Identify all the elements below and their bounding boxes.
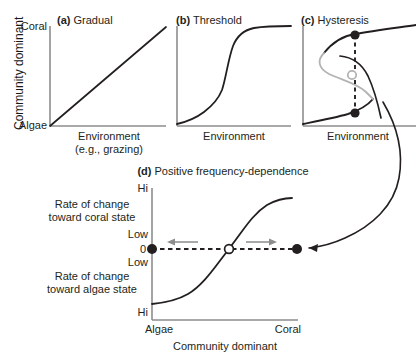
panel-a-tag: (a)	[57, 14, 70, 26]
panel-c-axes	[303, 26, 416, 126]
panel-b-title-text: Threshold	[193, 14, 242, 26]
panel-c-upper-stable-branch	[324, 25, 416, 53]
panel-d-ytick-hi-bottom: Hi	[106, 306, 148, 318]
panel-a-ytick-coral: Coral	[4, 20, 47, 32]
panel-d-lower-axis-label-line2: toward algae state	[38, 283, 146, 296]
figure-vector-canvas	[0, 0, 416, 361]
shared-y-axis-label: Community dominant	[12, 17, 26, 130]
panel-d-ytick-low-lower: Low	[106, 256, 148, 268]
panel-d-tag: (d)	[137, 165, 151, 177]
panel-c-xlabel: Environment	[303, 130, 413, 142]
panel-b-threshold-curve	[177, 26, 291, 124]
panel-d-xtick-coral: Coral	[248, 323, 301, 335]
panel-b-title: (b) Threshold	[176, 14, 242, 26]
panel-d-stable-coral-dot	[292, 244, 302, 254]
panel-a-ytick-algae: Algae	[4, 119, 47, 131]
panel-b-xlabel: Environment	[177, 130, 291, 142]
panel-a-title: (a) Gradual	[57, 14, 113, 26]
panel-c-lower-stable-branch	[303, 99, 373, 124]
panel-c-unstable-dot	[348, 71, 356, 79]
panel-b-tag: (b)	[176, 14, 190, 26]
panel-d-right-arrow	[246, 239, 277, 246]
panel-d-ytick-hi-top: Hi	[106, 182, 148, 194]
panel-d-title: (d) Positive frequency-dependence	[113, 165, 333, 177]
panel-d-rate-curve	[152, 198, 292, 304]
panel-d-upper-axis-label-line2: toward coral state	[38, 211, 146, 224]
panel-c-unstable-branch	[320, 53, 373, 99]
panel-d-xlabel: Community dominant	[140, 340, 310, 352]
panel-d-upper-axis-label-line1: Rate of change	[38, 198, 146, 211]
panel-d-ytick-low-upper: Low	[106, 228, 148, 240]
panel-c-title: (c) Hysteresis	[301, 14, 369, 26]
panel-a-xlabel-line1: Environment	[50, 130, 168, 142]
panel-c-tag: (c)	[301, 14, 314, 26]
panel-a-gradual-line	[50, 27, 166, 126]
panel-c-stable-coral-dot	[350, 30, 359, 39]
panel-d-lower-axis-label-line1: Rate of change	[38, 270, 146, 283]
panel-d-xtick-algae: Algae	[145, 323, 173, 335]
panel-c-stable-algae-dot	[350, 108, 359, 117]
panel-d-ytick-zero: 0	[106, 243, 146, 255]
panel-a-xlabel-line2: (e.g., grazing)	[50, 143, 168, 155]
panel-d-upper-axis-label: Rate of change toward coral state	[38, 198, 146, 224]
panel-d-title-text: Positive frequency-dependence	[155, 165, 309, 177]
panel-d-unstable-dot	[225, 245, 234, 254]
panel-b-axes	[177, 26, 291, 126]
panel-d-left-arrow	[167, 239, 198, 246]
panel-d-lower-axis-label: Rate of change toward algae state	[38, 270, 146, 296]
connector-arrow-head	[309, 244, 318, 252]
panel-c-title-text: Hysteresis	[318, 14, 369, 26]
figure-panel-container: Community dominant (a) Gradual Coral Alg…	[0, 0, 416, 361]
panel-a-title-text: Gradual	[74, 14, 113, 26]
panel-d-stable-algae-dot	[147, 244, 157, 254]
